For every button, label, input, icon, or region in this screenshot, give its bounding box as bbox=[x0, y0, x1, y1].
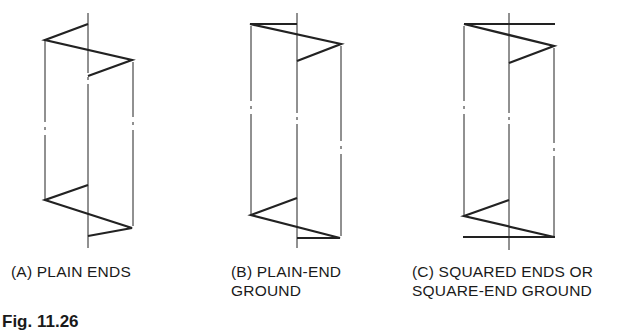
panel-c-label-line2: SQUARE-END GROUND bbox=[412, 281, 593, 300]
panel-a-plain-ends-drawing bbox=[45, 13, 133, 248]
panel-b-label-line1: (B) PLAIN-END bbox=[231, 262, 341, 281]
panel-c-label: (C) SQUARED ENDS OR SQUARE-END GROUND bbox=[412, 262, 593, 300]
panel-b-plain-end-ground-drawing bbox=[250, 13, 341, 248]
figure-caption: Fig. 11.26 bbox=[2, 312, 79, 330]
panel-a-label: (A) PLAIN ENDS bbox=[11, 262, 131, 281]
panel-a-label-line1: (A) PLAIN ENDS bbox=[11, 262, 131, 281]
panel-b-label-line2: GROUND bbox=[231, 281, 341, 300]
panel-c-label-line1: (C) SQUARED ENDS OR bbox=[412, 262, 593, 281]
panel-c-squared-ends-drawing bbox=[463, 13, 555, 250]
panel-b-label: (B) PLAIN-END SQUARE-END GROUND GROUND bbox=[231, 262, 341, 300]
